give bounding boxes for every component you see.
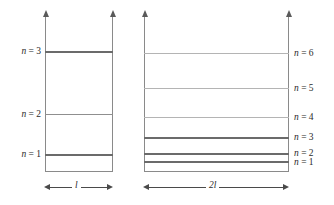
right-well-label-n4: n = 4 (294, 113, 314, 123)
right-well-dimension-label: 2l (206, 181, 219, 191)
right-well-dimension-arrow-left (143, 184, 149, 190)
right-well-level-n1 (144, 161, 289, 163)
right-well-width-dimension: 2l (143, 183, 289, 192)
left-well-width-dimension: l (44, 183, 113, 192)
right-well-right-axis-arrowhead (286, 10, 292, 17)
right-well-label-n5: n = 5 (294, 84, 314, 94)
left-well-dimension-label: l (72, 181, 81, 191)
left-well-label-n2: n = 2 (0, 110, 41, 120)
left-well-dimension-arrow-right (107, 184, 113, 190)
right-well-level-n2 (144, 153, 289, 155)
right-well-level-n6 (144, 53, 289, 54)
left-well-label-n3: n = 3 (0, 47, 41, 57)
right-well-label-n6: n = 6 (294, 49, 314, 59)
right-well-left-axis-arrowhead (142, 10, 148, 17)
left-well-right-axis-arrowhead (110, 10, 116, 17)
left-well-right-wall (112, 15, 113, 172)
left-well-level-n1 (45, 154, 113, 156)
left-well-label-n1: n = 1 (0, 150, 41, 160)
right-well-level-n4 (144, 117, 289, 118)
right-well-level-n5 (144, 88, 289, 89)
right-well-dimension-arrow-right (283, 184, 289, 190)
left-well-left-wall (45, 15, 46, 172)
left-well-left-axis-arrowhead (43, 10, 49, 17)
left-well-level-n2 (45, 114, 113, 115)
right-well-label-n3: n = 3 (294, 133, 314, 143)
right-well-level-n3 (144, 137, 289, 139)
left-well-floor (45, 171, 113, 172)
left-well-dimension-arrow-left (44, 184, 50, 190)
right-well-floor (144, 171, 289, 172)
right-well-left-wall (144, 15, 145, 172)
left-well-level-n3 (45, 51, 113, 53)
energy-level-diagram: n = 3 n = 2 n = 1 l n = 6 n = 5 n = 4 (0, 0, 334, 205)
right-well-label-n1: n = 1 (294, 158, 314, 168)
right-well-right-wall (288, 15, 289, 172)
